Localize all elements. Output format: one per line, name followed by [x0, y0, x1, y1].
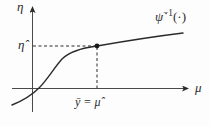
ybar-equals-muhat-label: ȳ = μ̂	[75, 96, 100, 108]
figure-container: η η̂ μ ȳ = μ̂ ψ̇−1(·)	[0, 0, 209, 126]
curve-label-argument: (·)	[173, 9, 186, 24]
curve-label-exponent: −1	[163, 8, 173, 18]
marked-point-dot	[95, 44, 100, 49]
y-axis-label-eta: η	[17, 0, 23, 13]
x-axis-label-mu: μ	[195, 81, 202, 94]
eta-hat-label: η̂	[18, 38, 24, 51]
curve-label-psi-inverse: ψ̇−1(·)	[155, 9, 186, 23]
curve-label-base: ψ̇	[155, 9, 163, 24]
